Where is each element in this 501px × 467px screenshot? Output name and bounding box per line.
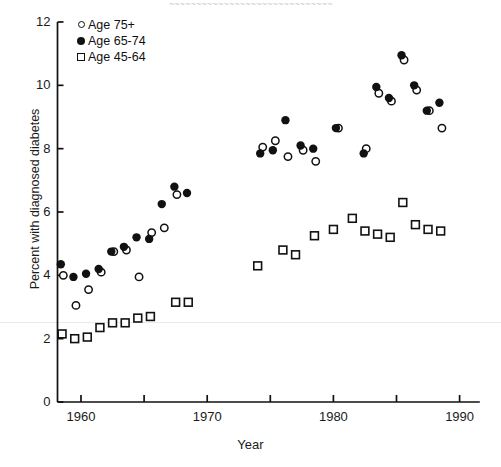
data-point — [435, 99, 443, 107]
y-tick-label: 12 — [25, 14, 51, 29]
y-tick-label: 10 — [25, 77, 51, 92]
x-tick-label: 1970 — [181, 409, 233, 424]
data-point — [71, 335, 79, 343]
data-point — [172, 298, 180, 306]
data-point — [145, 235, 153, 243]
data-point — [107, 247, 115, 255]
data-point — [83, 333, 91, 341]
legend-label: Age 75+ — [88, 18, 135, 32]
data-point — [109, 319, 117, 327]
data-point — [85, 286, 92, 293]
data-point — [437, 227, 445, 235]
legend-item: Age 75+ — [74, 17, 146, 32]
open-square-icon-shape — [77, 53, 85, 61]
data-point — [135, 273, 142, 280]
data-point — [173, 191, 180, 198]
filled-circle-icon-shape — [77, 37, 85, 45]
data-point — [312, 158, 319, 165]
data-point — [60, 272, 67, 279]
data-point — [279, 246, 287, 254]
data-point — [374, 230, 382, 238]
open-square-icon — [74, 53, 88, 61]
data-point — [132, 233, 140, 241]
data-point — [134, 314, 142, 322]
data-point — [158, 200, 166, 208]
series-age-65-74 — [57, 51, 444, 281]
open-circle-icon-shape — [78, 21, 85, 28]
series-age-45-64 — [58, 199, 444, 343]
data-point — [330, 226, 338, 234]
chart-legend: Age 75+Age 65-74Age 45-64 — [74, 17, 146, 65]
data-point — [170, 182, 178, 190]
legend-label: Age 65-74 — [88, 34, 146, 48]
data-point — [386, 233, 394, 241]
data-point — [272, 137, 279, 144]
y-tick-label: 0 — [25, 394, 51, 409]
data-point — [410, 81, 418, 89]
data-point — [147, 313, 155, 321]
data-point — [348, 214, 356, 222]
y-tick-label: 2 — [25, 331, 51, 346]
data-point — [412, 221, 420, 229]
data-point — [94, 265, 102, 273]
filled-circle-icon — [74, 37, 88, 45]
data-point — [311, 232, 319, 240]
data-point — [423, 106, 431, 114]
data-point — [385, 94, 393, 102]
data-point — [284, 153, 291, 160]
data-point — [332, 124, 340, 132]
data-point — [438, 124, 445, 131]
legend-label: Age 45-64 — [88, 50, 146, 64]
data-point — [58, 330, 66, 338]
data-point — [72, 302, 79, 309]
data-point — [296, 141, 304, 149]
legend-item: Age 45-64 — [74, 49, 146, 64]
data-point — [309, 144, 317, 152]
data-point — [161, 224, 168, 231]
data-point — [281, 116, 289, 124]
scatter-plot-canvas — [0, 0, 501, 467]
data-point — [359, 149, 367, 157]
data-point — [397, 51, 405, 59]
data-point — [254, 262, 262, 270]
data-point — [399, 199, 407, 207]
data-point — [82, 270, 90, 278]
x-tick-label: 1990 — [434, 409, 486, 424]
data-point — [121, 319, 129, 327]
data-point — [69, 273, 77, 281]
data-point — [256, 149, 264, 157]
legend-item: Age 65-74 — [74, 33, 146, 48]
data-point — [57, 260, 65, 268]
y-axis-title: Percent with diagnosed diabetes — [28, 104, 42, 294]
data-point — [361, 227, 369, 235]
data-point — [120, 243, 128, 251]
data-point — [269, 146, 277, 154]
data-point — [424, 226, 432, 234]
x-axis-title: Year — [0, 437, 501, 452]
x-tick-label: 1960 — [55, 409, 107, 424]
data-point — [184, 298, 192, 306]
data-point — [292, 251, 300, 259]
chart-figure: ~~~~~~~~~~~~~~~~~~~~~~~~~~~~~~ 024681012… — [0, 0, 501, 467]
open-circle-icon — [74, 21, 88, 28]
data-point — [372, 83, 380, 91]
data-point — [183, 189, 191, 197]
x-tick-label: 1980 — [307, 409, 359, 424]
data-point — [96, 324, 104, 332]
